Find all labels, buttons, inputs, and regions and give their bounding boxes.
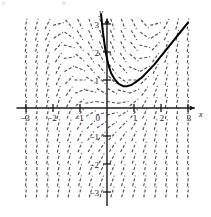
slope-segment (36, 63, 38, 74)
x-axis-label: x (198, 109, 203, 119)
slope-segment (36, 131, 37, 142)
slope-segment (131, 42, 138, 51)
slope-segment (176, 97, 178, 108)
solution-curve-layer (101, 14, 188, 86)
slope-segment (153, 75, 157, 85)
slope-segment (36, 164, 37, 175)
slope-segment (111, 19, 114, 29)
slope-segment (25, 142, 26, 153)
slope-segment (177, 142, 178, 153)
slope-segment (75, 67, 85, 71)
slope-segment (121, 142, 126, 152)
slope-segment (89, 176, 92, 186)
slope-segment (119, 77, 128, 83)
slope-segment (57, 97, 60, 107)
slope-segment (130, 54, 138, 61)
slope-segment (36, 175, 37, 186)
slope-segment (85, 90, 96, 93)
slope-segment (111, 187, 114, 197)
slope-segment (110, 53, 115, 63)
slope-segment (122, 176, 125, 186)
slope-segment (86, 111, 96, 117)
slope-segment (187, 142, 188, 153)
x-tick-label: 1 (133, 113, 138, 123)
slope-segment (143, 120, 147, 130)
slope-segment (85, 102, 96, 104)
slope-segment (64, 57, 75, 59)
slope-segment (143, 131, 146, 141)
slope-segment (99, 41, 103, 51)
slope-segment (45, 30, 49, 40)
slope-segment (188, 175, 189, 186)
x-tick-label: 2 (160, 113, 165, 123)
slope-segment (176, 75, 178, 86)
slope-segment (26, 153, 27, 164)
slope-segment (165, 75, 168, 86)
slope-segment (155, 153, 157, 164)
slope-segment (25, 30, 27, 41)
slope-segment (46, 75, 49, 86)
slope-segment (165, 108, 167, 119)
slope-segment (67, 109, 71, 119)
slope-segment (177, 164, 178, 175)
slope-segment (46, 64, 49, 75)
slope-segment (110, 154, 115, 164)
slope-segment (120, 132, 126, 141)
slope-segment (188, 187, 189, 198)
slope-segment (166, 175, 167, 186)
slope-segment (56, 64, 61, 74)
slope-segment (79, 187, 82, 198)
y-tick-label: 1 (95, 76, 100, 86)
slope-segment (77, 42, 84, 51)
slope-segment (57, 153, 59, 164)
slope-segment (36, 52, 38, 63)
slope-segment (187, 63, 188, 74)
y-tick-label: 2 (95, 48, 100, 58)
plot-canvas: −3−2−1123321−1−2−30xy (0, 0, 211, 217)
slope-segment (57, 142, 59, 153)
slope-segment (47, 131, 49, 142)
slope-segment (176, 63, 178, 74)
slope-segment (46, 41, 50, 51)
slope-segment (176, 52, 178, 63)
x-axis-arrowhead (190, 105, 195, 110)
slope-segment (164, 19, 169, 29)
slope-segment (25, 19, 27, 30)
slope-segment (129, 67, 139, 71)
slope-segment (89, 19, 93, 29)
slope-segment (68, 153, 71, 164)
slope-segment (26, 164, 27, 175)
slope-segment (66, 87, 72, 96)
slope-segment (99, 143, 105, 152)
slope-segment (165, 97, 167, 108)
slope-segment (187, 131, 188, 142)
slope-segment (100, 176, 104, 186)
slope-segment (99, 154, 104, 164)
slope-segment (144, 164, 146, 175)
slope-segment (108, 122, 117, 128)
y-tick-label: 3 (95, 20, 100, 30)
y-tick-label: −1 (89, 132, 99, 142)
slope-segment (88, 142, 93, 152)
slope-segment (165, 86, 167, 97)
slope-segment (176, 19, 179, 30)
slope-segment (65, 20, 72, 28)
slope-segment (55, 42, 62, 50)
slope-segment (36, 108, 38, 119)
slope-segment (188, 164, 189, 175)
slope-segment (121, 153, 125, 163)
x-tick-label: −2 (47, 113, 57, 123)
slope-segment (68, 175, 70, 186)
slope-segment (55, 53, 61, 62)
slope-segment (78, 19, 83, 29)
slope-segment (152, 42, 159, 50)
slope-segment (57, 108, 60, 119)
slope-segment (166, 131, 168, 142)
slope-segment (78, 142, 82, 152)
slope-segment (36, 75, 38, 86)
slope-segment (151, 32, 160, 38)
slope-segment (36, 97, 38, 108)
slope-segment (108, 88, 118, 94)
slope-segment (139, 57, 150, 59)
slope-segment (155, 187, 157, 198)
